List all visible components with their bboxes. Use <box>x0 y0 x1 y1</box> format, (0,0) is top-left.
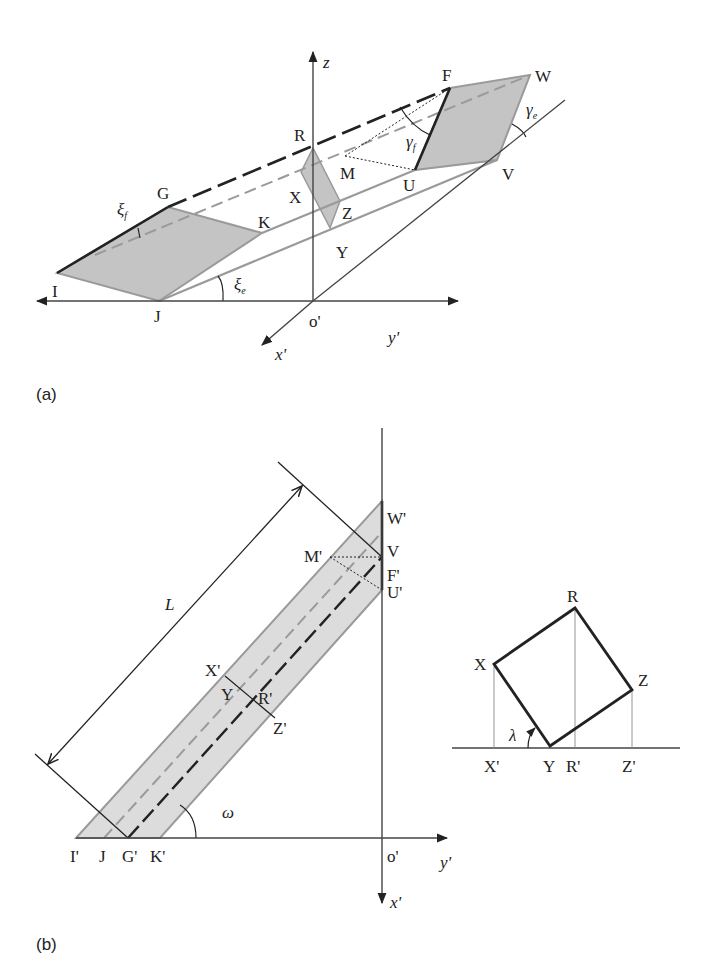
label-gamma-e: γe <box>526 100 538 121</box>
label-Y: Y <box>543 757 555 776</box>
edge-K-U <box>262 170 415 233</box>
section-RXYZ <box>301 148 340 228</box>
arc-gamma-f <box>400 107 430 135</box>
plan-gray-dashed <box>104 532 382 838</box>
label-I: I <box>52 282 58 301</box>
label-x: x' <box>389 893 402 912</box>
label-X: X' <box>205 661 220 680</box>
label-y: y' <box>386 328 400 347</box>
label-Z: Z <box>638 671 648 690</box>
label-origin: o' <box>387 847 399 866</box>
panel-b: W' V M' F' U' X' Y R' Z' I' J G' K' L ω … <box>35 428 452 954</box>
arc-gamma-e <box>512 124 526 137</box>
label-Z: Z <box>342 204 352 223</box>
label-W: W' <box>387 509 406 528</box>
label-z: z <box>322 53 330 72</box>
label-R: R <box>567 587 579 606</box>
label-xi-e: ξe <box>234 275 246 296</box>
label-K: K <box>258 213 271 232</box>
label-G: G <box>157 184 169 203</box>
label-xi-f: ξf <box>117 200 128 221</box>
label-Z-proj: Z' <box>622 757 635 776</box>
label-X-proj: X' <box>484 757 499 776</box>
label-x: x' <box>274 345 287 364</box>
arc-lambda <box>528 728 535 748</box>
label-M: M' <box>304 547 322 566</box>
label-omega: ω <box>222 803 234 822</box>
label-V: V <box>387 542 400 561</box>
label-origin: o' <box>309 312 321 331</box>
label-U: U <box>403 176 415 195</box>
panel-a: z y' x' o' F W R G M U V X Z K Y I J ξf … <box>36 52 565 404</box>
label-Z: Z' <box>273 719 286 738</box>
label-Y: Y <box>336 243 348 262</box>
dotted-M-U <box>345 156 415 170</box>
caption-b: (b) <box>36 935 57 954</box>
dim-tick-top <box>278 462 382 557</box>
label-L: L <box>164 595 174 614</box>
label-K: K' <box>150 847 165 866</box>
label-lambda: λ <box>508 726 516 745</box>
label-I: I' <box>70 847 79 866</box>
label-Y: Y <box>221 685 233 704</box>
cross-section: R X Z λ X' Y R' Z' <box>452 587 680 776</box>
label-J: J <box>99 847 106 866</box>
label-X: X <box>289 188 301 207</box>
label-F: F <box>442 66 451 85</box>
label-J: J <box>154 307 161 326</box>
label-gamma-f: γf <box>406 132 417 153</box>
label-R-proj: R' <box>566 757 580 776</box>
label-R: R' <box>258 689 272 708</box>
label-G: G' <box>122 847 137 866</box>
label-U: U' <box>387 583 402 602</box>
arc-xi-e <box>218 276 223 301</box>
caption-a: (a) <box>36 385 57 404</box>
label-W: W <box>535 67 552 86</box>
figure: z y' x' o' F W R G M U V X Z K Y I J ξf … <box>0 0 716 974</box>
label-y: y' <box>438 853 452 872</box>
label-M: M <box>340 164 355 183</box>
label-X: X <box>474 655 486 674</box>
x-axis <box>262 301 313 345</box>
label-V: V <box>502 165 515 184</box>
plan-band <box>76 501 382 838</box>
label-R: R <box>294 126 306 145</box>
face-FWVU <box>415 75 530 170</box>
